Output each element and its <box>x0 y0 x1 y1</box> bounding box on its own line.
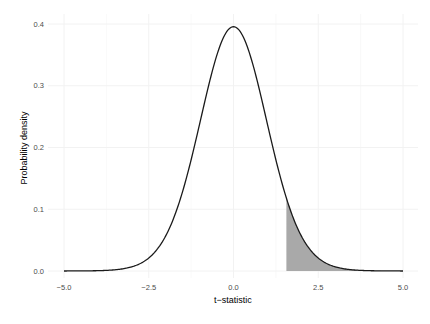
grid-lines <box>48 14 418 278</box>
y-axis-ticks: 0.00.10.20.30.4 <box>34 20 44 276</box>
y-tick-label: 0.4 <box>34 20 44 29</box>
x-tick-label: −5.0 <box>57 283 72 292</box>
x-axis-title: t−statistic <box>214 295 252 305</box>
y-tick-label: 0.3 <box>34 81 44 90</box>
x-tick-label: 0.0 <box>228 283 238 292</box>
t-distribution-chart: −5.0−2.50.02.55.0 0.00.10.20.30.4 t−stat… <box>0 0 430 324</box>
x-tick-label: 2.5 <box>313 283 323 292</box>
y-axis-title: Probability density <box>19 111 29 185</box>
x-axis-ticks: −5.0−2.50.02.55.0 <box>57 283 409 292</box>
x-tick-label: 5.0 <box>398 283 408 292</box>
x-tick-label: −2.5 <box>141 283 156 292</box>
y-tick-label: 0.1 <box>34 205 44 214</box>
y-tick-label: 0.2 <box>34 143 44 152</box>
y-tick-label: 0.0 <box>34 267 44 276</box>
